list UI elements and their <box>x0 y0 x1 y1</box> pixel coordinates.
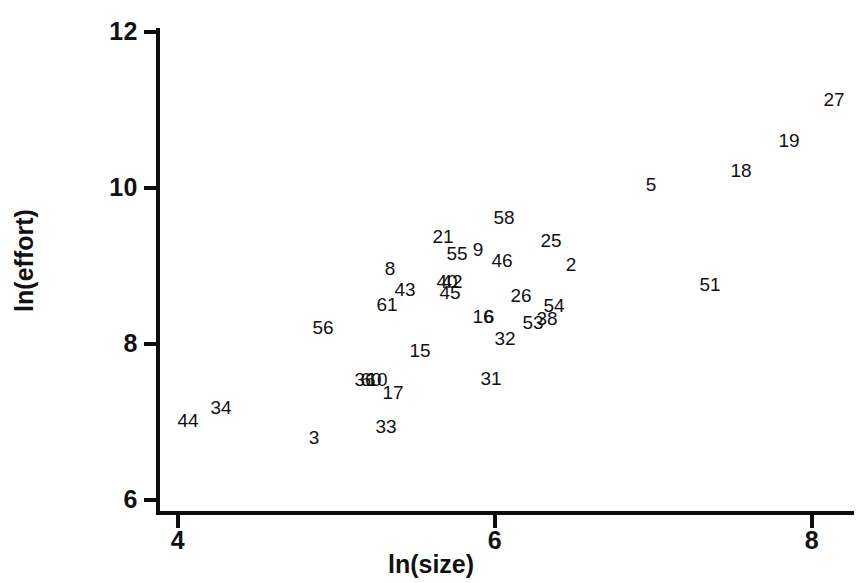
y-tick-label: 8 <box>78 329 138 358</box>
y-axis-line <box>156 28 160 515</box>
y-tick-mark <box>144 30 157 34</box>
data-point-label: 15 <box>409 341 430 360</box>
data-point-label: 6 <box>484 307 495 326</box>
x-axis-title: ln(size) <box>0 550 862 579</box>
data-point-label: 18 <box>730 161 751 180</box>
data-point-label: 2 <box>566 255 577 274</box>
data-point-label: 44 <box>177 411 198 430</box>
data-point-label: 17 <box>382 383 403 402</box>
data-point-label: 58 <box>493 208 514 227</box>
data-point-label: 9 <box>473 240 484 259</box>
y-tick-mark <box>144 186 157 190</box>
data-point-label: 43 <box>394 280 415 299</box>
y-tick-label: 10 <box>78 173 138 202</box>
data-point-label: 3 <box>309 428 320 447</box>
data-point-label: 8 <box>385 259 396 278</box>
y-tick-label: 12 <box>78 17 138 46</box>
data-point-label: 46 <box>491 251 512 270</box>
data-point-label: 25 <box>540 231 561 250</box>
data-point-label: 33 <box>375 417 396 436</box>
data-point-label: 26 <box>510 286 531 305</box>
x-axis-line <box>156 511 854 515</box>
data-point-label: 5 <box>646 175 657 194</box>
data-point-label: 55 <box>446 244 467 263</box>
scatter-plot-figure: 121086 468 ln(effort) ln(size) 271918551… <box>0 0 862 583</box>
data-point-label: 61 <box>376 295 397 314</box>
data-point-label: 51 <box>699 275 720 294</box>
y-tick-mark <box>144 498 157 502</box>
y-axis-title: ln(effort) <box>10 181 39 341</box>
data-point-label: 56 <box>312 318 333 337</box>
data-point-label: 19 <box>778 131 799 150</box>
data-point-label: 32 <box>494 329 515 348</box>
data-point-label: 34 <box>210 398 231 417</box>
y-tick-mark <box>144 342 157 346</box>
y-tick-label: 6 <box>78 485 138 514</box>
data-point-label: 45 <box>439 283 460 302</box>
data-point-label: 31 <box>480 369 501 388</box>
data-point-label: 38 <box>536 309 557 328</box>
data-point-label: 27 <box>823 90 844 109</box>
